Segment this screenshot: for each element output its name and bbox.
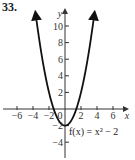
x-axis-label: x (124, 110, 130, 121)
y-tick-label: 8 (58, 37, 63, 48)
function-label: f(x) = x² − 2 (69, 126, 118, 138)
x-tick-label: 4 (95, 110, 100, 121)
x-tick-label: 6 (111, 110, 116, 121)
y-tick-label: 4 (58, 70, 63, 81)
y-tick-label: −2 (52, 120, 63, 131)
y-tick-label: −4 (52, 137, 63, 148)
y-tick-label: 6 (58, 54, 63, 65)
labels: −6−4−20246−4−2246810xyf(x) = x² − 2 (12, 8, 130, 148)
y-tick-label: 10 (53, 21, 63, 32)
x-tick-label: −4 (28, 110, 39, 121)
y-tick-label: 2 (58, 87, 63, 98)
y-axis-label: y (57, 8, 63, 19)
parabola-chart: −6−4−20246−4−2246810xyf(x) = x² − 2 (0, 0, 135, 160)
x-tick-label: 2 (79, 110, 84, 121)
x-tick-label: −6 (12, 110, 23, 121)
